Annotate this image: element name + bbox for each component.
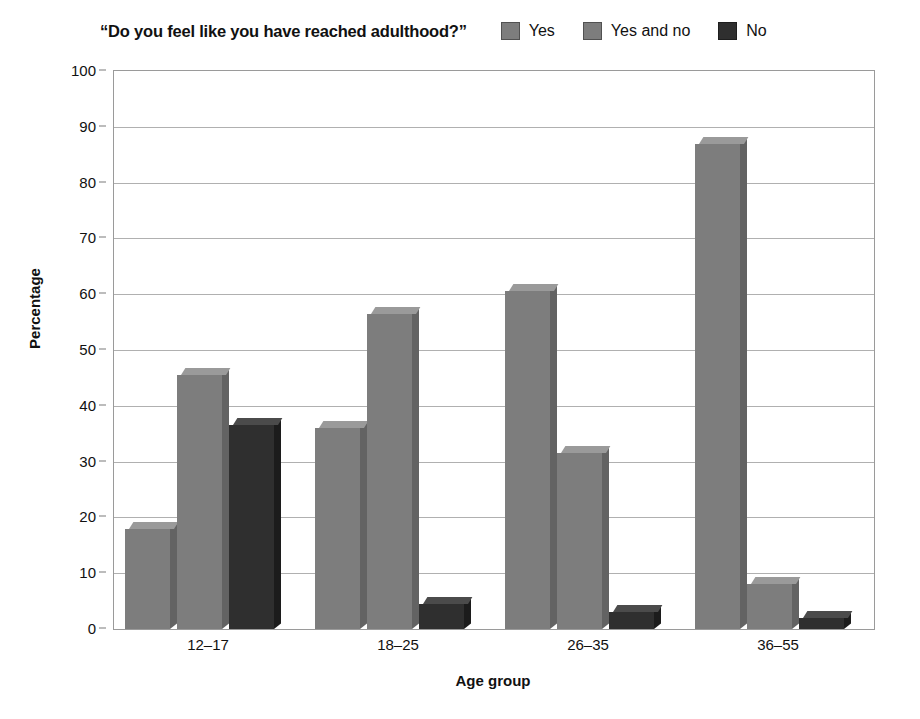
bar-front-face bbox=[367, 314, 412, 629]
bar-top-face bbox=[423, 597, 472, 604]
y-tick-mark bbox=[99, 349, 106, 350]
y-tick-label: 20 bbox=[79, 508, 96, 525]
bar-top-face bbox=[371, 307, 420, 314]
bar-group bbox=[125, 71, 281, 629]
y-tick-mark bbox=[99, 460, 106, 461]
bar-top-face bbox=[233, 418, 282, 425]
bar-top-face bbox=[561, 446, 610, 453]
bar-36-55-yes bbox=[695, 144, 747, 629]
bar-front-face bbox=[799, 618, 844, 629]
x-tick-label: 12–17 bbox=[187, 636, 229, 653]
y-tick-mark bbox=[99, 125, 106, 126]
bar-26-35-yes-and-no bbox=[557, 453, 609, 629]
bar-side-face bbox=[360, 423, 367, 629]
bar-front-face bbox=[125, 529, 170, 629]
bar-front-face bbox=[609, 612, 654, 629]
bar-side-face bbox=[412, 308, 419, 629]
bar-group bbox=[695, 71, 851, 629]
bar-26-35-no bbox=[609, 612, 661, 629]
y-tick-label: 80 bbox=[79, 173, 96, 190]
y-tick-label: 60 bbox=[79, 285, 96, 302]
y-tick-mark bbox=[99, 516, 106, 517]
plot-area bbox=[113, 70, 875, 630]
bar-side-face bbox=[602, 448, 609, 629]
bar-12-17-yes bbox=[125, 529, 177, 629]
bar-side-face bbox=[792, 579, 799, 629]
bar-side-face bbox=[550, 286, 557, 629]
bar-12-17-yes-and-no bbox=[177, 375, 229, 629]
bar-18-25-yes bbox=[315, 428, 367, 629]
bars-layer bbox=[114, 71, 874, 629]
bar-front-face bbox=[747, 584, 792, 629]
bar-top-face bbox=[613, 605, 662, 612]
x-axis-ticks: 12–1718–2526–3536–55 bbox=[113, 636, 873, 666]
chart-plot-wrapper: Percentage 0102030405060708090100 12–171… bbox=[0, 0, 920, 719]
y-tick-label: 100 bbox=[71, 62, 96, 79]
y-tick-label: 30 bbox=[79, 452, 96, 469]
y-axis-ticks: 0102030405060708090100 bbox=[48, 70, 106, 628]
bar-top-face bbox=[699, 137, 748, 144]
bar-front-face bbox=[505, 291, 550, 629]
y-tick-label: 10 bbox=[79, 564, 96, 581]
bar-top-face bbox=[129, 522, 178, 529]
bar-group bbox=[505, 71, 661, 629]
y-tick-mark bbox=[99, 628, 106, 629]
y-tick-mark bbox=[99, 181, 106, 182]
y-tick-mark bbox=[99, 293, 106, 294]
bar-front-face bbox=[557, 453, 602, 629]
bar-36-55-yes-and-no bbox=[747, 584, 799, 629]
bar-group bbox=[315, 71, 471, 629]
bar-front-face bbox=[229, 425, 274, 629]
bar-front-face bbox=[695, 144, 740, 629]
x-axis-title: Age group bbox=[113, 672, 873, 689]
bar-18-25-yes-and-no bbox=[367, 314, 419, 629]
bar-18-25-no bbox=[419, 604, 471, 629]
bar-front-face bbox=[419, 604, 464, 629]
bar-side-face bbox=[222, 370, 229, 629]
y-axis-title: Percentage bbox=[26, 239, 43, 379]
x-tick-label: 26–35 bbox=[567, 636, 609, 653]
y-tick-mark bbox=[99, 404, 106, 405]
bar-side-face bbox=[740, 138, 747, 629]
bar-top-face bbox=[319, 421, 368, 428]
bar-36-55-no bbox=[799, 618, 851, 629]
y-tick-label: 40 bbox=[79, 396, 96, 413]
bar-top-face bbox=[509, 284, 558, 291]
y-tick-label: 50 bbox=[79, 341, 96, 358]
bar-12-17-no bbox=[229, 425, 281, 629]
bar-front-face bbox=[177, 375, 222, 629]
bar-side-face bbox=[274, 420, 281, 629]
bar-top-face bbox=[803, 611, 852, 618]
y-tick-mark bbox=[99, 70, 106, 71]
bar-top-face bbox=[181, 368, 230, 375]
bar-top-face bbox=[751, 577, 800, 584]
bar-side-face bbox=[170, 523, 177, 629]
x-tick-label: 36–55 bbox=[757, 636, 799, 653]
bar-front-face bbox=[315, 428, 360, 629]
y-tick-label: 70 bbox=[79, 229, 96, 246]
y-tick-mark bbox=[99, 572, 106, 573]
bar-26-35-yes bbox=[505, 291, 557, 629]
y-tick-label: 0 bbox=[88, 620, 96, 637]
y-tick-mark bbox=[99, 237, 106, 238]
x-tick-label: 18–25 bbox=[377, 636, 419, 653]
y-tick-label: 90 bbox=[79, 117, 96, 134]
